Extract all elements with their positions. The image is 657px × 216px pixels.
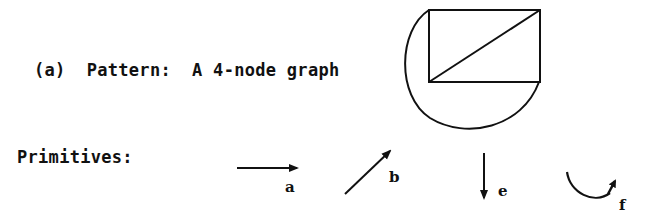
primitive-f-label: f bbox=[619, 196, 625, 214]
primitive-b-label: b bbox=[389, 168, 400, 186]
graph-diagonal-edge bbox=[429, 10, 540, 82]
primitive-b-arrow-icon bbox=[345, 151, 390, 194]
primitive-f-arc-arrow-icon bbox=[567, 172, 615, 198]
graph-arc-edge bbox=[405, 10, 539, 129]
diagram-canvas bbox=[0, 0, 657, 216]
primitive-e-label: e bbox=[498, 182, 508, 200]
primitive-a-label: a bbox=[285, 178, 295, 196]
four-node-graph bbox=[405, 10, 540, 129]
